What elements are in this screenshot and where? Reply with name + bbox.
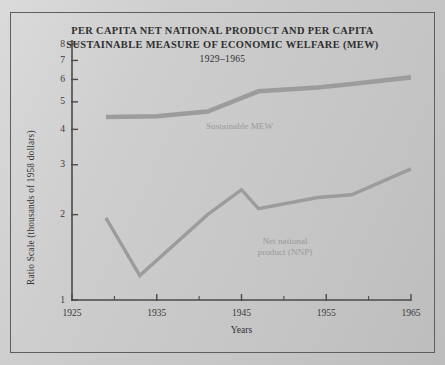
y-tick-label-1: 1 [47, 294, 65, 305]
y-tick-label-2: 2 [47, 208, 65, 219]
y-tick-label-5: 5 [47, 95, 65, 106]
x-axis-title: Years [212, 324, 272, 335]
y-tick-label-7: 7 [47, 54, 65, 65]
annotation-nnp-line2: product (NNP) [245, 247, 325, 258]
y-tick-label-4: 4 [47, 123, 65, 134]
annotation-nnp-line1: Net national [245, 236, 325, 247]
y-tick-label-6: 6 [47, 73, 65, 84]
annotation-sustainable-mew: Sustainable MEW [206, 121, 273, 132]
y-tick-label-3: 3 [47, 158, 65, 169]
x-tick-label-1925: 1925 [52, 307, 92, 318]
x-tick-label-1955: 1955 [306, 307, 346, 318]
y-tick-label-8: 8 [47, 38, 65, 49]
series-line-sustainable-mew [106, 77, 411, 117]
chart-axes [72, 40, 411, 300]
x-tick-label-1935: 1935 [137, 307, 177, 318]
series-line-net-national-product [106, 169, 411, 276]
x-tick-label-1945: 1945 [222, 307, 262, 318]
figure-page: PER CAPITA NET NATIONAL PRODUCT AND PER … [0, 0, 445, 365]
x-tick-label-1965: 1965 [391, 307, 431, 318]
